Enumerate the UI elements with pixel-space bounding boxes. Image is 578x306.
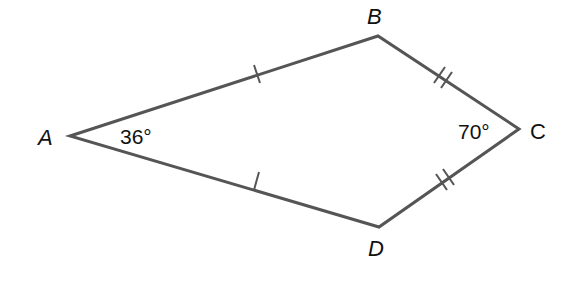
tick-ad <box>254 172 259 190</box>
angle-a-label: 36° <box>120 125 152 148</box>
vertex-label-a: A <box>36 125 53 150</box>
vertex-label-b: B <box>367 4 382 29</box>
vertex-label-d: D <box>368 236 384 261</box>
kite-diagram: A B C D 36° 70° <box>0 0 578 306</box>
vertex-label-c: C <box>530 119 546 144</box>
angle-c-label: 70° <box>458 120 490 143</box>
